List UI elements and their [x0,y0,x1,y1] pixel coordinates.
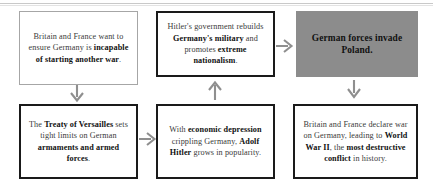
arrow-right-icon-treaty-to-depression [138,129,158,149]
node-rearmament[interactable]: Hitler's government rebuilds Germany's m… [156,11,275,77]
node-depression[interactable]: With economic depression crippling Germa… [156,104,275,179]
node-declaration-text: Britain and France declare war on German… [295,119,416,165]
arrow-down-icon-invasion-to-declaration [344,79,364,101]
node-rearmament-text: Hitler's government rebuilds Germany's m… [158,21,273,67]
header-rule-secondary [0,5,433,6]
node-declaration[interactable]: Britain and France declare war on German… [293,104,418,179]
node-treaty-text: The Treaty of Versailles sets tight limi… [21,119,136,165]
arrow-right-icon-rearmament-to-invasion [275,36,295,56]
node-invasion-text: German forces invade Poland. [296,32,418,57]
node-depression-text: With economic depression crippling Germa… [158,124,273,158]
node-treaty[interactable]: The Treaty of Versailles sets tight limi… [19,104,138,179]
arrow-down-icon-versailles-to-treaty [67,84,87,104]
node-versailles-intent-text: Britain and France want to ensure German… [20,31,137,65]
node-versailles-intent[interactable]: Britain and France want to ensure German… [19,11,138,85]
node-invasion[interactable]: German forces invade Poland. [296,11,418,77]
flowchart-canvas: Britain and France want to ensure German… [0,0,433,187]
header-rule [0,3,433,4]
arrow-up-icon-depression-to-rearmament [205,79,225,101]
